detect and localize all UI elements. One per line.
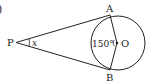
tangent-circle-diagram: ) P A B O 150° x xyxy=(0,0,152,83)
problem-number: ) xyxy=(0,3,2,16)
label-b: B xyxy=(106,72,113,83)
label-o: O xyxy=(121,38,129,49)
angle-label-150: 150° xyxy=(92,39,114,49)
label-p: P xyxy=(7,37,14,48)
unknown-angle-x: x xyxy=(32,38,37,48)
label-a: A xyxy=(105,3,114,14)
center-point xyxy=(116,42,119,45)
